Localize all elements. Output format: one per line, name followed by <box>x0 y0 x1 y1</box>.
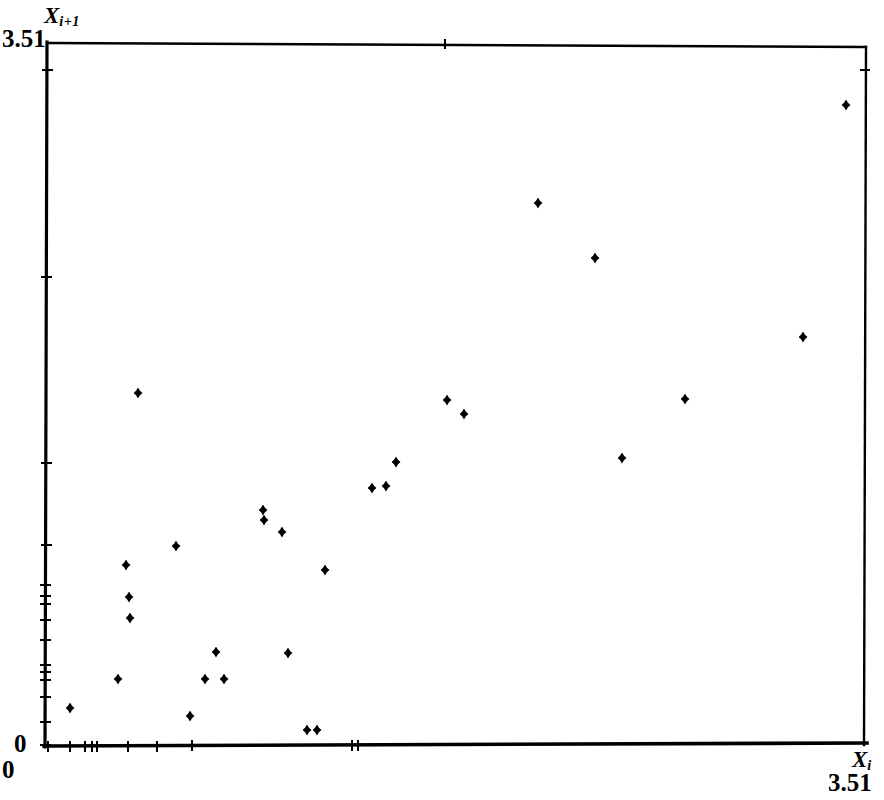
data-point <box>842 100 851 111</box>
data-point <box>382 481 391 492</box>
y-axis-label-subscript: i+1 <box>59 13 79 29</box>
data-point <box>114 674 123 685</box>
data-point <box>368 483 377 494</box>
data-point <box>126 613 135 624</box>
data-point <box>591 253 600 264</box>
data-point <box>259 505 268 516</box>
y-axis-label: Xi+1 <box>44 4 80 28</box>
data-point <box>122 560 131 571</box>
data-point <box>443 395 452 406</box>
x-axis-max-value: 3.51 <box>828 770 872 795</box>
data-point <box>212 647 221 658</box>
x-axis-min-value: 0 <box>2 757 15 782</box>
data-point <box>66 703 75 714</box>
data-point <box>799 332 808 343</box>
scatter-points-layer <box>0 0 884 800</box>
data-point <box>172 541 181 552</box>
scatter-plot-figure: Xi+1 Xi 3.51 0 0 3.51 <box>0 0 884 800</box>
data-point <box>321 565 330 576</box>
y-axis-label-symbol: X <box>44 3 59 28</box>
data-point <box>260 515 269 526</box>
data-point <box>220 674 229 685</box>
data-point <box>534 198 543 209</box>
data-point <box>186 711 195 722</box>
y-axis-max-value: 3.51 <box>2 26 46 51</box>
data-point <box>303 725 312 736</box>
data-point <box>134 388 143 399</box>
data-point <box>125 592 134 603</box>
data-point <box>201 674 210 685</box>
data-point <box>460 409 469 420</box>
data-point <box>681 394 690 405</box>
y-axis-min-value: 0 <box>14 731 27 756</box>
data-point <box>313 725 322 736</box>
data-point <box>392 457 401 468</box>
data-point <box>618 453 627 464</box>
data-point <box>278 527 287 538</box>
data-point <box>284 648 293 659</box>
